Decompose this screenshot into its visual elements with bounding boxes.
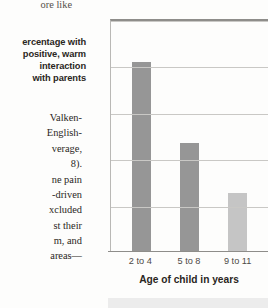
bar-slot xyxy=(167,21,211,252)
text-line: with parents xyxy=(0,72,86,84)
bar[interactable] xyxy=(132,62,151,252)
x-axis-line xyxy=(108,251,268,252)
grid-line xyxy=(111,21,268,22)
book-page: ore like ercentage withpositive, warmint… xyxy=(0,0,268,308)
bar-slot xyxy=(216,21,260,252)
text-line: ercentage with xyxy=(0,36,86,48)
text-line: ne pain xyxy=(0,172,82,187)
grid-line xyxy=(111,67,268,68)
chart-caption-label: ercentage withpositive, warminteractionw… xyxy=(0,36,86,84)
body-text-fragment-1: Valken-English-verage,8).ne pain-drivenx… xyxy=(0,110,82,249)
bar[interactable] xyxy=(180,143,199,253)
x-axis-tick-labels: 2 to 45 to 89 to 11 xyxy=(110,256,268,266)
text-line: interaction xyxy=(0,60,86,72)
text-line: st their xyxy=(0,218,82,233)
text-line: English- xyxy=(0,125,82,140)
body-text-fragment-2: areas— xyxy=(0,248,82,263)
grid-line xyxy=(111,160,268,161)
page-bottom-shade xyxy=(108,298,268,308)
x-axis-tick-label: 9 to 11 xyxy=(216,256,260,266)
plot-area: 020406080100% xyxy=(110,19,268,252)
text-line: m, and xyxy=(0,233,82,248)
text-line: positive, warm xyxy=(0,48,86,60)
text-line: 8). xyxy=(0,156,82,171)
text-line: Valken- xyxy=(0,110,82,125)
bar[interactable] xyxy=(228,193,247,252)
page-top-text-fragment: ore like xyxy=(0,0,72,12)
text-line: xcluded xyxy=(0,202,82,217)
grid-line xyxy=(111,207,268,208)
grid-line xyxy=(111,114,268,115)
x-axis-title: Age of child in years xyxy=(110,274,268,285)
x-axis-tick-label: 2 to 4 xyxy=(118,256,162,266)
x-axis-tick-label: 5 to 8 xyxy=(167,256,211,266)
bar-chart: 020406080100% xyxy=(110,19,268,252)
text-line: -driven xyxy=(0,187,82,202)
bar-series xyxy=(111,21,268,252)
bar-slot xyxy=(119,21,163,252)
text-line: verage, xyxy=(0,141,82,156)
